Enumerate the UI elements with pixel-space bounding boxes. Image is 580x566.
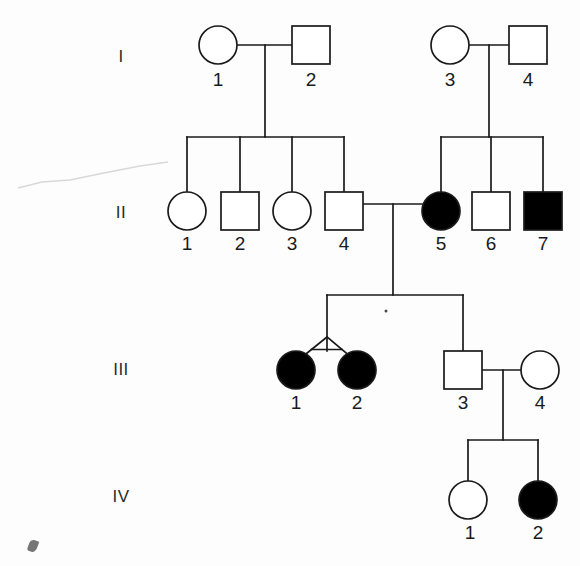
individual-III-4[interactable] [521,351,559,389]
individual-II-5[interactable] [422,192,460,230]
individual-number-I-4: 4 [523,69,534,91]
individual-number-I-3: 3 [445,69,456,91]
individual-number-II-6: 6 [486,233,497,255]
generation-label-IV: IV [112,487,129,507]
generation-label-III: III [113,360,129,380]
individual-number-II-7: 7 [538,233,549,255]
generation-label-II: II [116,203,126,223]
individual-IV-2[interactable] [519,481,557,519]
individual-IV-1[interactable] [449,481,487,519]
individual-number-I-1: 1 [213,69,224,91]
pedigree-chart: IIIIIIIV 12341234567123412 [0,0,580,566]
individual-I-1[interactable] [199,26,237,64]
individual-II-1[interactable] [168,192,206,230]
individual-III-3[interactable] [444,351,482,389]
scan-scratch [18,162,168,188]
pedigree-drawing [0,0,580,566]
individual-number-III-2: 2 [352,392,363,414]
scan-artifact-layer [18,162,388,313]
individual-I-4[interactable] [509,26,547,64]
individual-number-II-5: 5 [436,233,447,255]
individual-II-3[interactable] [273,192,311,230]
individual-II-4[interactable] [325,192,363,230]
individual-number-II-1: 1 [182,233,193,255]
individual-II-7[interactable] [524,192,562,230]
individual-number-II-4: 4 [339,233,350,255]
pedigree-symbol-layer [168,26,562,519]
individual-number-III-4: 4 [535,392,546,414]
individual-II-2[interactable] [221,192,259,230]
individual-number-III-3: 3 [458,392,469,414]
individual-number-II-3: 3 [287,233,298,255]
pedigree-line-layer [187,45,543,481]
individual-number-I-2: 2 [306,69,317,91]
ink-dot [385,310,388,313]
individual-I-2[interactable] [292,26,330,64]
individual-number-II-2: 2 [235,233,246,255]
individual-number-III-1: 1 [291,392,302,414]
individual-II-6[interactable] [472,192,510,230]
generation-label-I: I [118,47,123,67]
individual-number-IV-2: 2 [533,522,544,544]
individual-III-2[interactable] [338,351,376,389]
individual-number-IV-1: 1 [465,522,476,544]
individual-I-3[interactable] [431,26,469,64]
individual-III-1[interactable] [277,351,315,389]
